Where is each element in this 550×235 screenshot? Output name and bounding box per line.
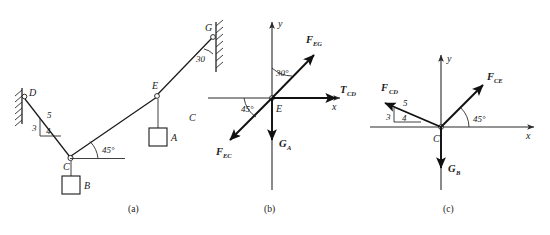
slope-horizontal-label-a: 4 — [46, 126, 51, 136]
wall-support-G — [216, 20, 223, 72]
wall-support-D — [15, 88, 22, 126]
slope-vertical-label-a: 3 — [31, 123, 37, 133]
point-label-C-panel-a: C — [63, 161, 70, 172]
caption-panel-b: (b) — [264, 204, 275, 215]
point-label-D: D — [28, 87, 37, 98]
angle-arc-G — [204, 49, 213, 54]
vector-sub-G-A: A — [286, 144, 292, 151]
block-label-B: B — [84, 180, 90, 191]
vector-F-CD — [385, 103, 441, 127]
x-axis-label-panel-b: x — [331, 101, 337, 112]
vector-sub-G-B: B — [455, 169, 461, 176]
stray-label-C-panel-a: C — [189, 112, 196, 123]
vector-sub-F-CD: CD — [389, 88, 398, 95]
vector-label-G-B: G — [448, 163, 456, 174]
slope-horizontal-label-c: 4 — [402, 113, 407, 123]
origin-label-E-panel-b: E — [275, 103, 282, 114]
panel-b: y x E F EG 30° T CD F EC 45° — [208, 18, 356, 215]
vector-label-F-CE: F — [486, 71, 494, 82]
joint-G — [211, 35, 216, 40]
angle-arc-45-panel-c — [461, 108, 469, 127]
slope-vertical-label-c: 3 — [385, 112, 391, 122]
angle-label-30-panel-b: 30° — [275, 68, 289, 78]
y-axis-label-panel-c: y — [446, 53, 452, 64]
joint-E-panel-a — [155, 94, 160, 99]
vector-label-T-CD: T — [340, 84, 347, 95]
joint-C-panel-a — [68, 155, 73, 160]
caption-panel-c: (c) — [443, 204, 454, 215]
slope-hypotenuse-label-c: 5 — [403, 98, 408, 108]
joint-D — [22, 94, 27, 99]
y-axis-label-panel-b: y — [277, 18, 283, 29]
vector-label-F-CD: F — [380, 82, 388, 93]
caption-panel-a: (a) — [128, 204, 139, 215]
vector-label-F-EC: F — [215, 146, 223, 157]
point-label-E-panel-a: E — [151, 80, 158, 91]
angle-label-C-panel-a: 45° — [102, 145, 115, 155]
member-EG — [157, 38, 212, 95]
origin-label-C-panel-c: C — [433, 133, 440, 144]
block-A — [149, 128, 167, 146]
statics-figure: D 3 4 5 C 45° E — [0, 0, 550, 235]
point-label-G: G — [205, 22, 212, 33]
slope-triangle-a: 3 4 5 — [31, 110, 61, 136]
vector-label-G-A: G — [279, 138, 287, 149]
figure-root: D 3 4 5 C 45° E — [0, 0, 550, 235]
vector-sub-F-CE: CE — [494, 77, 503, 84]
x-axis-label-panel-c: x — [525, 130, 531, 141]
angle-label-G: 30 — [195, 54, 206, 64]
angle-arc-C-panel-a — [90, 142, 98, 159]
angle-label-45-panel-b: 45° — [241, 104, 254, 114]
angle-label-45-panel-c: 45° — [473, 114, 486, 124]
vector-label-F-EG: F — [305, 34, 313, 45]
panel-c: y x C F CD 3 4 5 F CE — [370, 53, 534, 215]
panel-a: D 3 4 5 C 45° E — [15, 20, 223, 215]
block-label-A: A — [170, 132, 178, 143]
vector-sub-F-EG: EG — [312, 40, 322, 47]
slope-hypotenuse-label-a: 5 — [47, 110, 52, 120]
vector-sub-F-EC: EC — [222, 152, 232, 159]
vector-sub-T-CD: CD — [347, 90, 356, 97]
block-B — [62, 176, 80, 194]
